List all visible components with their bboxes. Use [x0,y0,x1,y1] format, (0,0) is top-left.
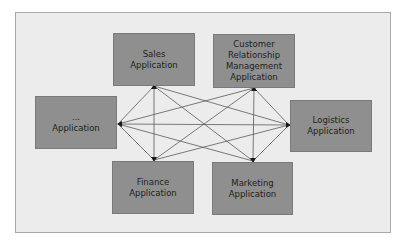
node-label: Logistics Application [307,115,355,137]
node-label: Sales Application [130,49,178,71]
node-other-application: ... Application [35,96,117,149]
edge-logistics-marketing [253,125,289,161]
edge-other-finance [118,124,154,160]
node-marketing-application: Marketing Application [212,162,293,215]
node-label: Marketing Application [229,178,277,200]
node-logistics-application: Logistics Application [290,100,372,152]
edge-crm-other [118,88,254,124]
edge-sales-other [118,86,154,124]
node-label: Customer Relationship Management Applica… [226,39,282,83]
edge-sales-logistics [154,86,289,125]
edge-other-marketing [118,124,253,161]
node-label: ... Application [52,112,100,134]
edge-crm-logistics [254,88,289,125]
node-label: Finance Application [129,177,177,199]
node-finance-application: Finance Application [112,161,194,214]
node-crm-application: Customer Relationship Management Applica… [213,34,295,88]
edge-logistics-finance [154,125,289,160]
node-sales-application: Sales Application [113,33,195,86]
edge-other-logistics [118,124,289,125]
